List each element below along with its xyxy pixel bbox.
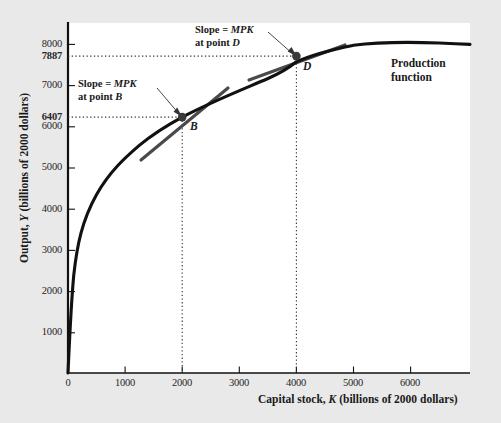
xtick-label-6000: 6000 — [390, 377, 430, 388]
xtick-label-2000: 2000 — [162, 377, 202, 388]
y-axis-title-suffix: (billions of 2000 dollars) — [18, 93, 30, 214]
y-axis-title: Output, Y (billions of 2000 dollars) — [18, 68, 30, 288]
ytick-label-4000: 4000 — [26, 203, 62, 214]
ytick-label-7000: 7000 — [26, 79, 62, 90]
at-point-text-d: at point — [195, 37, 232, 48]
xtick-label-3000: 3000 — [219, 377, 259, 388]
y-axis-title-variable: Y — [18, 214, 30, 221]
annotation-slope-d-line1: Slope = MPK — [195, 24, 254, 37]
x-axis-title: Capital stock, K (billions of 2000 dolla… — [258, 393, 458, 405]
production-function-label-line1: Production — [391, 56, 446, 70]
xtick-label-0: 0 — [53, 377, 83, 388]
tangent-line-b — [141, 88, 228, 160]
xtick-label-5000: 5000 — [333, 377, 373, 388]
x-tick-marks — [68, 367, 411, 374]
production-function-label: Production function — [391, 56, 446, 84]
mpk-text-b: MPK — [114, 78, 137, 89]
figure-container: 8000 7887 7000 6407 6000 5000 4000 3000 … — [0, 0, 501, 423]
ytick-label-7887: 7887 — [26, 50, 62, 61]
x-axis-title-prefix: Capital stock, — [258, 393, 329, 405]
data-point-b[interactable] — [178, 113, 187, 122]
slope-eq-text-d: Slope = — [195, 24, 231, 35]
annotation-slope-d-line2: at point D — [195, 37, 254, 50]
data-point-d[interactable] — [292, 52, 301, 61]
production-function-label-line2: function — [391, 70, 446, 84]
at-point-text-b: at point — [78, 91, 115, 102]
x-axis-title-suffix: (billions of 2000 dollars) — [336, 393, 457, 405]
annotation-slope-d: Slope = MPK at point D — [195, 24, 254, 49]
ytick-label-8000: 8000 — [26, 38, 62, 49]
xtick-label-4000: 4000 — [276, 377, 316, 388]
annotation-slope-b-line2: at point B — [78, 91, 137, 104]
mpk-text-d: MPK — [231, 24, 254, 35]
point-label-d: D — [303, 60, 311, 72]
ytick-label-6000: 6000 — [26, 120, 62, 131]
point-name-b: B — [115, 91, 122, 102]
ytick-label-3000: 3000 — [26, 244, 62, 255]
point-label-b: B — [190, 120, 198, 132]
annotation-slope-b: Slope = MPK at point B — [78, 78, 137, 103]
ytick-label-5000: 5000 — [26, 161, 62, 172]
ytick-label-2000: 2000 — [26, 285, 62, 296]
xtick-label-1000: 1000 — [105, 377, 145, 388]
y-axis-title-prefix: Output, — [18, 221, 30, 263]
point-name-d: D — [232, 37, 240, 48]
ytick-label-1000: 1000 — [26, 326, 62, 337]
annotation-slope-b-line1: Slope = MPK — [78, 78, 137, 91]
slope-eq-text-b: Slope = — [78, 78, 114, 89]
